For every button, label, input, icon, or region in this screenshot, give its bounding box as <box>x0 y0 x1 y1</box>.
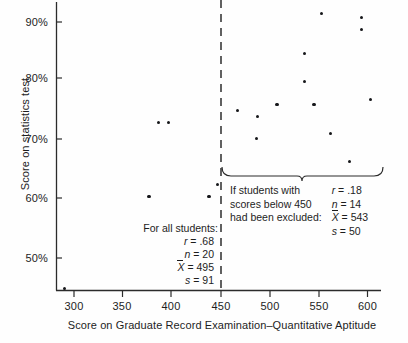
x-tick-label: 500 <box>250 300 290 312</box>
data-point <box>312 103 315 106</box>
x-tick-label: 300 <box>54 300 94 312</box>
r-value: .68 <box>199 235 214 247</box>
excluded-students-values: r = .18 n = 14 X = 543 s = 50 <box>332 184 369 238</box>
xbar-symbol: X <box>332 211 339 225</box>
r-symbol: r <box>332 184 336 196</box>
excluded-line-2: scores below 450 <box>230 198 322 212</box>
scatter-plot-figure: 90% 80% 70% 60% 50% 300 350 400 450 500 … <box>0 0 408 343</box>
excluded-r: r = .18 <box>332 184 369 198</box>
r-value: .18 <box>347 184 362 196</box>
data-point <box>369 98 372 101</box>
data-point <box>63 287 66 290</box>
n-equals: = <box>340 198 346 210</box>
sd-value: 50 <box>349 225 361 237</box>
excluded-students-text: If students with scores below 450 had be… <box>230 184 322 238</box>
sd-equals: = <box>340 225 346 237</box>
s-symbol: s <box>332 225 337 237</box>
r-equals: = <box>190 235 196 247</box>
y-tick-label: 90% <box>4 16 48 28</box>
data-point <box>360 16 363 19</box>
all-students-sd: s = 91 <box>122 274 218 287</box>
n-symbol: n <box>332 198 338 210</box>
excluded-students-stats-block: If students with scores below 450 had be… <box>230 184 368 238</box>
n-symbol: n <box>184 248 190 260</box>
r-equals: = <box>338 184 344 196</box>
s-symbol: s <box>185 274 190 286</box>
n-value: 14 <box>350 198 362 210</box>
x-tick-label: 600 <box>348 300 388 312</box>
all-students-r: r = .68 <box>122 235 218 248</box>
excluded-mean: X = 543 <box>332 211 369 225</box>
sd-equals: = <box>193 274 199 286</box>
x-axis-title: Score on Graduate Record Examination–Qua… <box>52 319 392 331</box>
data-point <box>275 103 278 106</box>
all-students-n: n = 20 <box>122 248 218 261</box>
group-brace <box>222 167 383 181</box>
xbar-symbol: X <box>177 261 184 274</box>
x-tick-label: 400 <box>151 300 191 312</box>
mean-equals: = <box>342 211 348 223</box>
x-tick-label: 550 <box>299 300 339 312</box>
n-equals: = <box>193 248 199 260</box>
x-tick-label: 350 <box>102 300 142 312</box>
excluded-n: n = 14 <box>332 198 369 212</box>
n-value: 20 <box>202 248 214 260</box>
y-tick-label: 50% <box>4 252 48 264</box>
excluded-line-1: If students with <box>230 184 322 198</box>
mean-value: 543 <box>351 211 369 223</box>
all-students-stats-block: For all students: r = .68 n = 20 X = 495… <box>122 222 218 287</box>
all-students-mean: X = 495 <box>122 261 218 274</box>
r-symbol: r <box>184 235 188 247</box>
y-axis-title: Score on statistics test <box>19 49 31 219</box>
mean-equals: = <box>187 261 193 273</box>
excluded-line-3: had been excluded: <box>230 211 322 225</box>
plot-canvas <box>0 0 408 343</box>
x-tick-label: 450 <box>201 300 241 312</box>
excluded-sd: s = 50 <box>332 225 369 239</box>
sd-value: 91 <box>202 274 214 286</box>
all-students-heading: For all students: <box>122 222 218 235</box>
data-point <box>236 109 239 112</box>
data-point <box>167 121 170 124</box>
mean-value: 495 <box>196 261 214 273</box>
